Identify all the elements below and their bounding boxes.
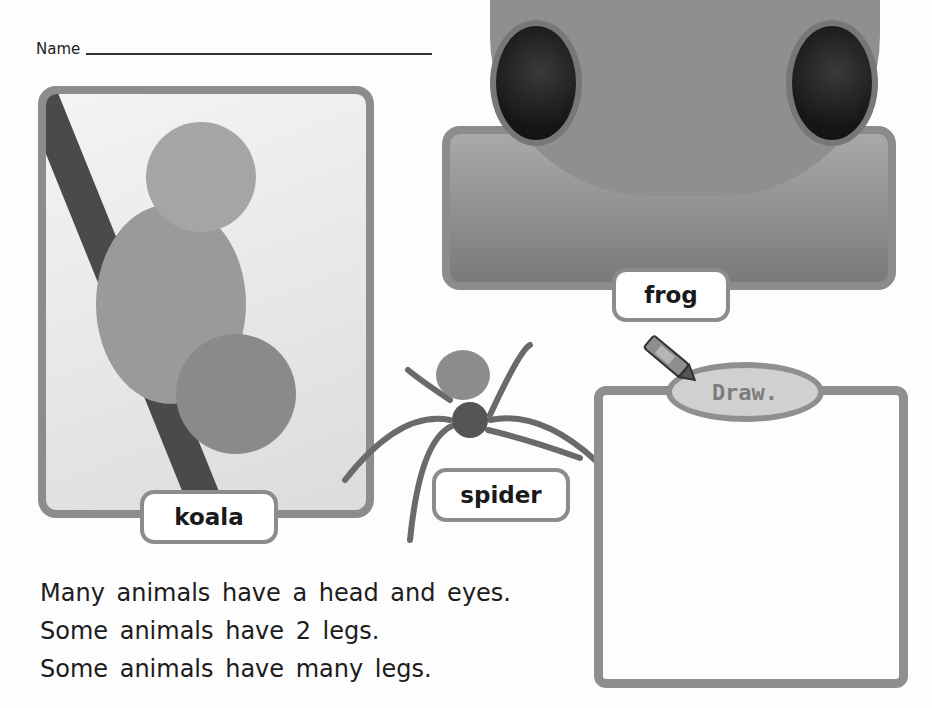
sentence-1: Many animals have a head and eyes.: [40, 574, 511, 612]
sentence-3: Some animals have many legs.: [40, 650, 511, 688]
koala-legs: [176, 334, 296, 454]
frog-eye-right: [786, 20, 878, 146]
frog-eye-left: [490, 20, 582, 146]
sentences: Many animals have a head and eyes. Some …: [40, 574, 511, 688]
frog-label: frog: [612, 268, 730, 322]
name-label: Name: [36, 40, 80, 58]
crayon-icon: [636, 330, 706, 390]
drawing-area[interactable]: [594, 386, 908, 688]
spider-label: spider: [432, 468, 570, 522]
koala-head: [146, 122, 256, 232]
name-input-line[interactable]: [86, 53, 432, 55]
name-row: Name: [36, 40, 432, 58]
koala-photo: [38, 86, 374, 518]
koala-label: koala: [140, 490, 278, 544]
sentence-2: Some animals have 2 legs.: [40, 612, 511, 650]
